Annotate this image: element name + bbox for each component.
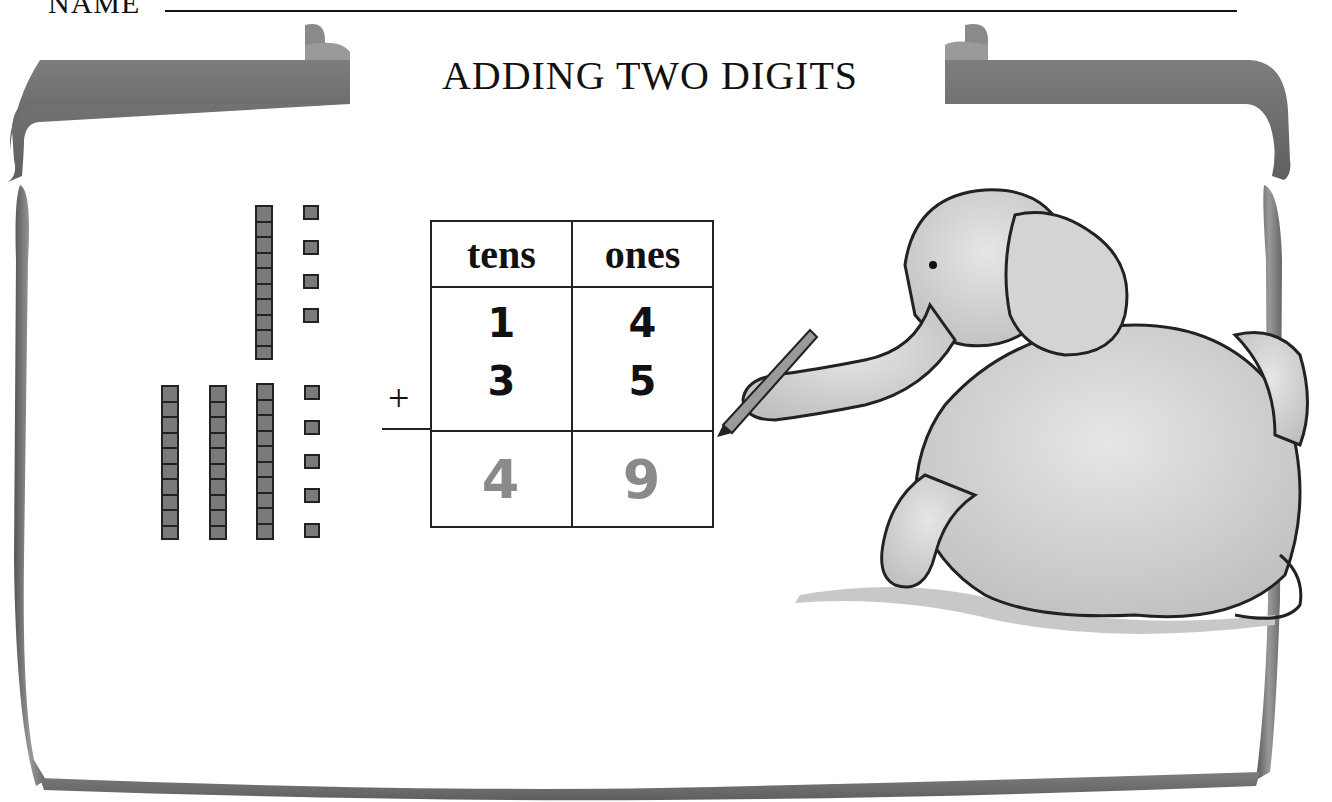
ones-unit bbox=[303, 205, 319, 220]
tens-rod bbox=[255, 205, 273, 360]
place-value-table: tens ones 1 4 3 5 4 9 bbox=[430, 220, 714, 528]
answer-ones[interactable]: 9 bbox=[572, 431, 713, 527]
ones-unit bbox=[304, 385, 320, 400]
header-tens: tens bbox=[431, 221, 572, 287]
addend2-tens: 3 bbox=[431, 358, 572, 431]
ones-unit bbox=[304, 454, 320, 469]
worksheet-title: ADDING TWO DIGITS bbox=[360, 52, 940, 99]
ones-unit bbox=[304, 420, 320, 435]
tens-rod bbox=[256, 383, 274, 540]
ones-unit bbox=[303, 274, 319, 289]
sum-line bbox=[382, 428, 432, 430]
answer-tens[interactable]: 4 bbox=[431, 431, 572, 527]
ones-unit bbox=[303, 308, 319, 323]
ones-unit bbox=[303, 240, 319, 255]
plus-sign: + bbox=[388, 376, 409, 420]
addend1-ones: 4 bbox=[572, 287, 713, 358]
elephant-illustration bbox=[715, 175, 1315, 635]
header-ones: ones bbox=[572, 221, 713, 287]
tens-rod bbox=[209, 385, 227, 540]
addend2-ones: 5 bbox=[572, 358, 713, 431]
tens-rod bbox=[161, 385, 179, 540]
ones-unit bbox=[304, 523, 320, 538]
ones-unit bbox=[304, 488, 320, 503]
addend1-tens: 1 bbox=[431, 287, 572, 358]
